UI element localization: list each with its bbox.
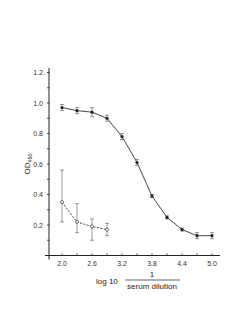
y-ticks: 0.20.40.60.81.01.2	[33, 69, 49, 240]
data-point	[60, 106, 63, 109]
y-tick-label: 0.6	[33, 161, 43, 168]
data-point	[76, 220, 79, 223]
x-tick-label: 3.2	[117, 260, 127, 267]
data-point	[91, 225, 94, 228]
x-tick-label: 4.4	[177, 260, 187, 267]
data-point	[180, 228, 183, 231]
series-line	[62, 202, 107, 229]
data-point	[61, 201, 64, 204]
axes	[45, 68, 220, 260]
chart: 0.20.40.60.81.01.2 2.02.63.23.84.45.0 OD…	[0, 0, 232, 314]
data-point	[90, 111, 93, 114]
y-tick-label: 1.2	[33, 69, 43, 76]
data-point	[195, 234, 198, 237]
data-point	[165, 216, 168, 219]
x-tick-label: 3.8	[147, 260, 157, 267]
data-point	[120, 135, 123, 138]
x-axis-label-prefix: log 10	[96, 277, 118, 286]
data-point	[135, 161, 138, 164]
x-tick-label: 2.6	[87, 260, 97, 267]
series-control	[60, 170, 109, 240]
x-axis-label-numerator: 1	[150, 270, 155, 279]
x-tick-label: 2.0	[57, 260, 67, 267]
data-point	[150, 194, 153, 197]
x-axis-label-denominator: serum dilution	[127, 282, 177, 291]
series-immune	[60, 105, 214, 239]
y-axis-label: OD450	[23, 153, 33, 174]
y-tick-label: 0.2	[33, 222, 43, 229]
series-line	[62, 108, 212, 236]
y-tick-label: 0.8	[33, 130, 43, 137]
y-tick-label: 0.4	[33, 191, 43, 198]
data-point	[75, 109, 78, 112]
data-point	[105, 117, 108, 120]
y-tick-label: 1.0	[33, 100, 43, 107]
x-tick-label: 5.0	[207, 260, 217, 267]
series-group	[60, 105, 214, 241]
data-point	[106, 228, 109, 231]
data-point	[210, 234, 213, 237]
